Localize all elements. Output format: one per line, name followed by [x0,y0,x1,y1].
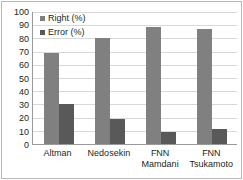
legend-item-right: Right (%) [40,14,86,23]
x-tick-line: Mamdani [135,159,186,170]
x-tick-label-fnn-mamdani: FNN Mamdani [135,148,186,170]
chart-legend: Right (%) Error (%) [40,14,86,37]
bar-right [146,27,161,144]
bar-error [110,119,125,144]
bar-group [135,12,186,144]
x-tick-line: Altman [32,148,83,159]
y-tick-label: 80 [3,35,29,44]
x-tick-line: Tsukamoto [186,159,237,170]
y-tick-label: 50 [3,75,29,84]
y-axis-tick-labels: 100 90 80 70 60 50 40 30 20 10 0 [0,12,29,145]
bar-right [197,29,212,144]
x-axis-tick-labels: Altman Nedosekin FNN Mamdani FNN Tsukamo… [32,148,237,170]
legend-swatch-icon [40,16,45,21]
y-tick-label: 100 [3,8,29,17]
y-tick-label: 40 [3,88,29,97]
bar-group [186,12,237,144]
bar-error [59,104,74,144]
x-tick-label-altman: Altman [32,148,83,170]
y-tick-label: 20 [3,114,29,123]
legend-item-error: Error (%) [40,28,86,37]
x-tick-label-nedosekin: Nedosekin [83,148,134,170]
bar-error [161,132,176,144]
y-tick-label: 0 [3,141,29,150]
legend-label: Error (%) [48,28,85,37]
bar-error [212,129,227,144]
legend-swatch-icon [40,30,45,35]
x-tick-line: FNN [186,148,237,159]
bar-group [84,12,135,144]
y-tick-label: 60 [3,61,29,70]
legend-label: Right (%) [48,14,86,23]
x-tick-label-fnn-tsukamoto: FNN Tsukamoto [186,148,237,170]
bar-right [44,53,59,144]
y-tick-label: 10 [3,128,29,137]
y-tick-label: 30 [3,101,29,110]
y-tick-label: 90 [3,21,29,30]
bar-chart-figure: 100 90 80 70 60 50 40 30 20 10 0 [0,0,243,180]
x-tick-line: FNN [135,148,186,159]
y-tick-label: 70 [3,48,29,57]
x-tick-line: Nedosekin [83,148,134,159]
bar-right [95,38,110,144]
